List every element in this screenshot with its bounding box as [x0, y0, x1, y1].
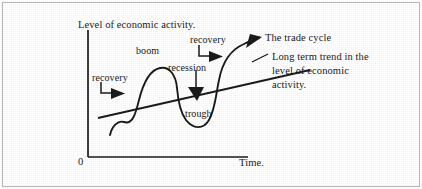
diagram-vector-layer: [0, 0, 422, 189]
label-boom: boom: [136, 45, 159, 57]
trade-cycle-figure: Level of economic activity. Time. 0 reco…: [0, 0, 422, 189]
trade-cycle-arrowhead: [246, 34, 262, 48]
recovery-arrowhead-2: [209, 51, 223, 62]
trend-callout-leader: [252, 54, 268, 62]
label-recovery-second: recovery: [190, 34, 226, 46]
label-recovery-first: recovery: [92, 72, 128, 84]
x-axis-title: Time.: [239, 157, 264, 169]
label-trough: trough: [185, 108, 212, 120]
callout-trade-cycle: The trade cycle: [265, 32, 331, 44]
origin-label: 0: [78, 156, 83, 168]
y-axis-title: Level of economic activity.: [78, 19, 195, 31]
label-recession: recession: [168, 62, 206, 74]
recovery-arrowhead-1: [111, 88, 125, 99]
callout-long-term-trend: Long term trend in the level of economic…: [272, 50, 369, 93]
